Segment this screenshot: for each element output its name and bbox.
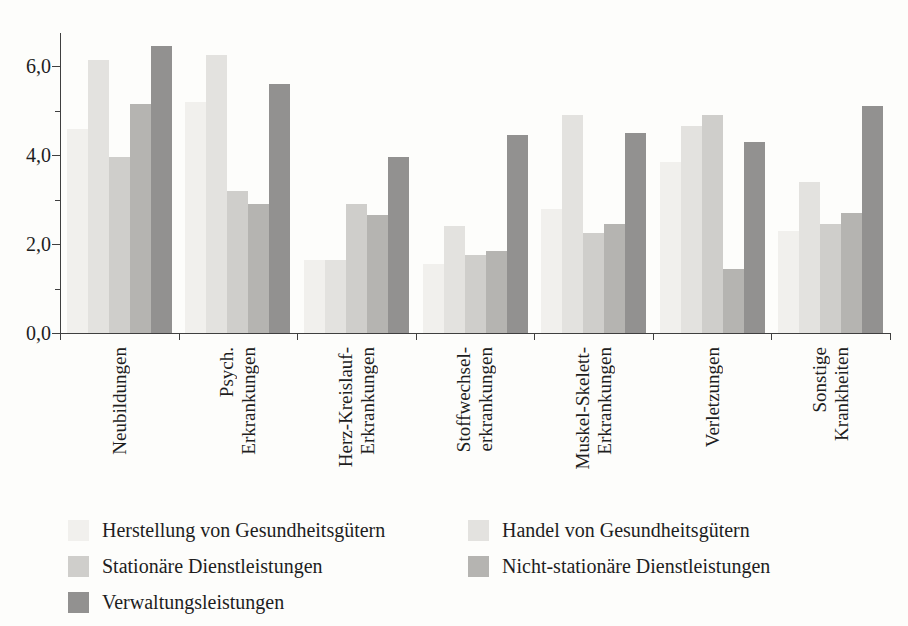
x-axis-line <box>60 333 891 334</box>
y-axis-major-tick <box>52 155 60 156</box>
legend-swatch-icon <box>68 556 89 577</box>
legend-item-series-1: Herstellung von Gesundheitsgütern <box>68 519 468 541</box>
bar-muskel-skelett-erkrankungen-series-2 <box>562 115 583 333</box>
x-axis-tick <box>653 334 654 340</box>
legend-item-series-4: Nicht-stationäre Dienstleistungen <box>468 555 868 577</box>
bar-muskel-skelett-erkrankungen-series-4 <box>604 224 625 333</box>
bar-neubildungen-series-4 <box>130 104 151 333</box>
bar-psych-erkrankungen-series-5 <box>269 84 290 333</box>
y-axis-minor-tick <box>55 111 60 112</box>
y-tick-label: 0,0 <box>7 323 51 343</box>
legend-label: Verwaltungsleistungen <box>102 591 284 613</box>
bar-herz-kreislauf-erkrankungen-series-5 <box>388 157 409 333</box>
legend-item-series-5: Verwaltungsleistungen <box>68 591 490 613</box>
legend-item-series-2: Handel von Gesundheitsgütern <box>468 519 868 541</box>
y-tick-label: 2,0 <box>7 234 51 254</box>
x-category-label-neubildungen: Neubildungen <box>60 347 179 517</box>
bar-herz-kreislauf-erkrankungen-series-1 <box>304 260 325 333</box>
legend-label: Herstellung von Gesundheitsgütern <box>102 519 385 541</box>
legend-row: Stationäre DienstleistungenNicht-station… <box>68 555 868 577</box>
bar-stoffwechselerkrankungen-series-1 <box>423 264 444 333</box>
x-category-label-stoffwechselerkrankungen: Stoffwechsel-erkrankungen <box>416 347 535 517</box>
bar-verletzungen-series-3 <box>702 115 723 333</box>
x-axis-tick <box>771 334 772 340</box>
bar-herz-kreislauf-erkrankungen-series-4 <box>367 215 388 333</box>
bar-muskel-skelett-erkrankungen-series-5 <box>625 133 646 333</box>
bar-verletzungen-series-4 <box>723 269 744 333</box>
y-axis-minor-tick <box>55 289 60 290</box>
bar-muskel-skelett-erkrankungen-series-3 <box>583 233 604 333</box>
x-axis-tick <box>179 334 180 340</box>
y-axis-major-tick <box>52 333 60 334</box>
x-category-label-line: Verletzungen <box>702 347 723 447</box>
bar-verletzungen-series-1 <box>660 162 681 333</box>
legend-label: Stationäre Dienstleistungen <box>102 555 323 577</box>
legend-swatch-icon <box>68 520 89 541</box>
y-axis-line <box>60 33 61 334</box>
x-category-label-line: Erkrankungen <box>357 347 378 455</box>
bar-neubildungen-series-5 <box>151 46 172 333</box>
bar-sonstige-krankheiten-series-3 <box>820 224 841 333</box>
legend-label: Handel von Gesundheitsgütern <box>502 519 750 541</box>
x-category-label-line: Krankheiten <box>831 347 852 441</box>
legend-swatch-icon <box>468 520 489 541</box>
legend: Herstellung von GesundheitsgüternHandel … <box>68 519 868 613</box>
bar-verletzungen-series-2 <box>681 126 702 333</box>
bar-verletzungen-series-5 <box>744 142 765 333</box>
y-tick-label: 4,0 <box>7 145 51 165</box>
x-category-label-muskel-skelett-erkrankungen: Muskel-Skelett-Erkrankungen <box>534 347 653 517</box>
bar-stoffwechselerkrankungen-series-4 <box>486 251 507 333</box>
bar-chart-figure: 0,02,04,06,0NeubildungenPsych.Erkrankung… <box>0 0 908 626</box>
x-category-label-herz-kreislauf-erkrankungen: Herz-Kreislauf-Erkrankungen <box>297 347 416 517</box>
bar-stoffwechselerkrankungen-series-3 <box>465 255 486 333</box>
bar-sonstige-krankheiten-series-4 <box>841 213 862 333</box>
bar-stoffwechselerkrankungen-series-5 <box>507 135 528 333</box>
bar-psych-erkrankungen-series-3 <box>227 191 248 333</box>
x-axis-tick <box>416 334 417 340</box>
bar-neubildungen-series-1 <box>67 129 88 333</box>
legend-swatch-icon <box>68 592 89 613</box>
bar-sonstige-krankheiten-series-2 <box>799 182 820 333</box>
x-category-label-verletzungen: Verletzungen <box>653 347 772 517</box>
bar-muskel-skelett-erkrankungen-series-1 <box>541 209 562 333</box>
bar-sonstige-krankheiten-series-1 <box>778 231 799 333</box>
x-category-label-line: Neubildungen <box>109 347 130 455</box>
x-axis-tick <box>534 334 535 340</box>
x-category-label-line: Muskel-Skelett- <box>572 347 593 469</box>
legend-label: Nicht-stationäre Dienstleistungen <box>502 555 770 577</box>
legend-item-series-3: Stationäre Dienstleistungen <box>68 555 468 577</box>
x-category-label-line: Sonstige <box>809 347 830 412</box>
y-axis-minor-tick <box>55 200 60 201</box>
x-category-label-line: Erkrankungen <box>238 347 259 455</box>
x-category-label-sonstige-krankheiten: SonstigeKrankheiten <box>771 347 890 517</box>
legend-row: Herstellung von GesundheitsgüternHandel … <box>68 519 868 541</box>
x-category-label-line: Stoffwechsel- <box>453 347 474 452</box>
bar-herz-kreislauf-erkrankungen-series-3 <box>346 204 367 333</box>
y-tick-label: 6,0 <box>7 56 51 76</box>
x-category-label-line: erkrankungen <box>475 347 496 451</box>
legend-row: Verwaltungsleistungen <box>68 591 868 613</box>
bar-neubildungen-series-3 <box>109 157 130 333</box>
x-category-label-line: Psych. <box>216 347 237 397</box>
x-category-label-line: Herz-Kreislauf- <box>335 347 356 467</box>
bar-herz-kreislauf-erkrankungen-series-2 <box>325 260 346 333</box>
bar-neubildungen-series-2 <box>88 60 109 333</box>
bar-psych-erkrankungen-series-1 <box>185 102 206 333</box>
x-axis-tick <box>890 334 891 340</box>
y-axis-major-tick <box>52 66 60 67</box>
y-axis-major-tick <box>52 244 60 245</box>
x-axis-tick <box>297 334 298 340</box>
bar-psych-erkrankungen-series-4 <box>248 204 269 333</box>
bar-psych-erkrankungen-series-2 <box>206 55 227 333</box>
bar-sonstige-krankheiten-series-5 <box>862 106 883 333</box>
x-axis-tick <box>60 334 61 340</box>
x-category-label-line: Erkrankungen <box>594 347 615 455</box>
bar-stoffwechselerkrankungen-series-2 <box>444 226 465 333</box>
legend-swatch-icon <box>468 556 489 577</box>
x-category-label-psych-erkrankungen: Psych.Erkrankungen <box>179 347 298 517</box>
